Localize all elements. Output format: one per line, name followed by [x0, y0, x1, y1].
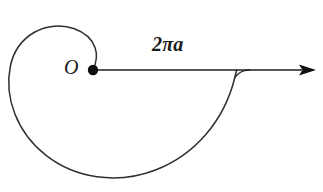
- spiral-figure: O 2πa: [0, 0, 323, 192]
- radius-length-label: 2πa: [152, 34, 184, 54]
- pole-point-marker: [88, 65, 98, 75]
- spiral-curve: [9, 26, 237, 178]
- origin-label: O: [64, 57, 78, 77]
- figure-canvas: [0, 0, 323, 192]
